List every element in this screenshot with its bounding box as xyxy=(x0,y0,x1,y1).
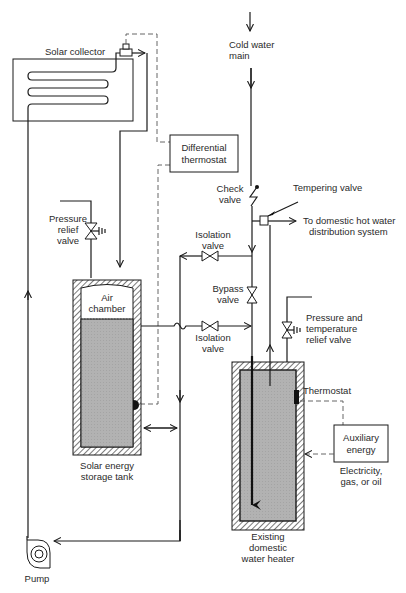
svg-text:Isolation: Isolation xyxy=(195,332,230,343)
svg-text:thermostat: thermostat xyxy=(182,154,227,165)
svg-text:Existing: Existing xyxy=(251,531,284,542)
solar-collector-label: Solar collector xyxy=(45,46,105,57)
svg-text:valve: valve xyxy=(202,240,224,251)
existing-domestic-water-heater xyxy=(232,345,304,530)
svg-text:gas, or oil: gas, or oil xyxy=(340,476,381,487)
svg-text:Electricity,: Electricity, xyxy=(340,465,383,476)
differential-thermostat: Differential thermostat xyxy=(170,135,238,172)
svg-text:valve: valve xyxy=(217,294,239,305)
auxiliary-energy-box: Auxiliary energy xyxy=(334,425,388,462)
solar-water-heating-diagram: Solar collector Differential thermostat … xyxy=(0,0,406,593)
check-valve-icon xyxy=(250,185,259,206)
isolation-valve-upper-icon xyxy=(202,251,218,261)
svg-text:Solar energy: Solar energy xyxy=(80,460,134,471)
svg-text:Differential: Differential xyxy=(181,142,226,153)
svg-text:Check: Check xyxy=(217,183,244,194)
svg-text:distribution system: distribution system xyxy=(309,226,388,237)
bypass-valve-icon xyxy=(247,287,257,303)
svg-text:chamber: chamber xyxy=(89,303,126,314)
svg-text:Thermostat: Thermostat xyxy=(303,385,351,396)
collector-sensor-icon xyxy=(120,49,132,56)
svg-text:valve: valve xyxy=(219,194,241,205)
svg-text:valve: valve xyxy=(202,343,224,354)
tempering-valve-icon xyxy=(260,216,268,225)
svg-text:Air: Air xyxy=(101,292,113,303)
heater-thermostat-icon xyxy=(294,390,299,404)
pt-relief-valve-icon xyxy=(282,322,300,338)
thermostat-control-wire xyxy=(300,401,343,425)
svg-text:storage tank: storage tank xyxy=(81,471,134,482)
svg-text:Cold water: Cold water xyxy=(229,39,274,50)
pump-icon xyxy=(27,536,50,568)
svg-text:Auxiliary: Auxiliary xyxy=(343,432,379,443)
svg-text:Pressure and: Pressure and xyxy=(306,312,363,323)
svg-text:Pressure: Pressure xyxy=(49,213,87,224)
svg-text:energy: energy xyxy=(346,444,375,455)
svg-text:valve: valve xyxy=(57,235,79,246)
isolation-valve-lower-icon xyxy=(202,321,218,331)
control-wire-tank xyxy=(140,165,170,404)
heater-water xyxy=(240,370,296,521)
svg-text:Bypass: Bypass xyxy=(212,283,243,294)
pressure-relief-valve-icon xyxy=(85,223,105,239)
svg-text:Isolation: Isolation xyxy=(195,229,230,240)
svg-text:Tempering valve: Tempering valve xyxy=(293,182,362,193)
svg-text:main: main xyxy=(229,50,250,61)
svg-text:relief: relief xyxy=(58,224,79,235)
svg-text:water heater: water heater xyxy=(241,553,295,564)
svg-text:Pump: Pump xyxy=(25,573,50,584)
svg-text:To domestic hot water: To domestic hot water xyxy=(303,215,395,226)
svg-text:domestic: domestic xyxy=(249,542,287,553)
storage-water xyxy=(81,319,133,447)
svg-text:temperature: temperature xyxy=(306,323,357,334)
svg-text:relief valve: relief valve xyxy=(306,334,351,345)
